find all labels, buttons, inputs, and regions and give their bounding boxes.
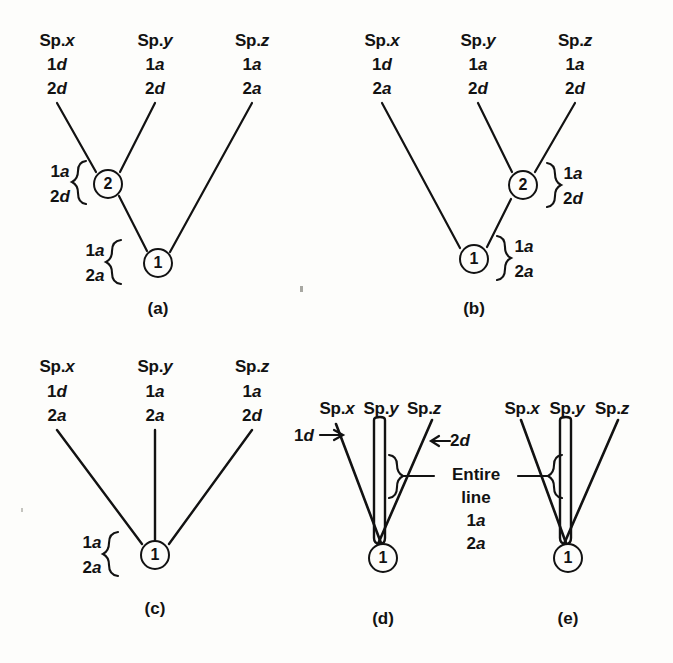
state-c-spy-char2: 2a	[146, 407, 165, 424]
brace-b-node2	[547, 163, 561, 207]
taxon-label-d-spy: Sp.y	[363, 400, 398, 417]
state-c-spx-char2: 2a	[48, 407, 67, 424]
state-b-spy-char2: 2d	[468, 80, 488, 97]
taxon-label-d-spz: Sp.z	[407, 400, 441, 417]
node-state-b-node1-char2: 2a	[515, 263, 534, 280]
node-state-b-node2-char1: 1a	[564, 165, 583, 182]
node-state-c-node1-char2: 2a	[83, 559, 102, 576]
annotation-state-2a: 2a	[467, 535, 486, 552]
taxon-label-b-spx: Sp.x	[364, 32, 399, 49]
taxon-label-c-spz: Sp.z	[235, 358, 269, 375]
state-c-spz-char2: 2d	[242, 407, 262, 424]
state-c-spy-char1: 1a	[146, 383, 165, 400]
figure-phylogenetic-trees: Sp.x Sp.y Sp.z 1d 2d 1a 2d 1a 2a 1a 2d 1…	[0, 0, 673, 663]
branch-a-spz	[170, 103, 252, 252]
taxon-label-e-spx: Sp.x	[504, 400, 539, 417]
state-c-spx-char1: 1d	[47, 383, 67, 400]
branch-b-node2-node1	[487, 199, 511, 247]
node-circle-c-1: 1	[140, 540, 170, 570]
state-a-spy-char2: 2d	[145, 80, 165, 97]
node-state-a-node1-char2: 2a	[86, 267, 105, 284]
scan-speck	[300, 286, 303, 292]
panel-caption-e: (e)	[558, 610, 579, 627]
state-b-spy-char1: 1a	[469, 56, 488, 73]
node-circle-e-1: 1	[553, 543, 583, 573]
annotation-arrow-label-2d: 2d	[450, 432, 470, 449]
branch-e-spy-loop	[560, 417, 571, 544]
brace-b-node1	[497, 236, 511, 280]
node-circle-b-1: 1	[459, 244, 489, 274]
node-state-b-node2-char2: 2d	[563, 190, 583, 207]
node-state-c-node1-char1: 1a	[83, 534, 102, 551]
node-circle-d-1: 1	[368, 543, 398, 573]
node-state-b-node1-char1: 1a	[515, 238, 534, 255]
node-state-a-node2-char1: 1a	[51, 163, 70, 180]
taxon-label-d-spx: Sp.x	[319, 400, 354, 417]
node-circle-b-2: 2	[508, 170, 538, 200]
taxon-label-c-spy: Sp.y	[137, 358, 172, 375]
state-b-spz-char1: 1a	[566, 56, 585, 73]
panel-caption-a: (a)	[148, 300, 169, 317]
node-circle-a-1: 1	[143, 248, 173, 278]
annotation-state-1a: 1a	[467, 512, 486, 529]
branch-d-spy-loop	[374, 417, 385, 544]
node-state-a-node1-char1: 1a	[86, 242, 105, 259]
arrow-label-d-1d: 1d	[294, 427, 314, 444]
state-b-spx-char2: 2a	[373, 80, 392, 97]
taxon-label-e-spz: Sp.z	[595, 400, 629, 417]
node-circle-a-2: 2	[93, 169, 123, 199]
branch-c-spz	[169, 430, 252, 544]
brace-a-node1	[106, 240, 121, 284]
branch-b-spz	[535, 103, 575, 172]
state-a-spx-char1: 1d	[47, 56, 67, 73]
taxon-label-c-spx: Sp.x	[39, 358, 74, 375]
state-a-spz-char2: 2a	[243, 80, 262, 97]
state-a-spx-char2: 2d	[47, 80, 67, 97]
state-b-spz-char2: 2d	[565, 80, 585, 97]
state-a-spz-char1: 1a	[243, 56, 262, 73]
branch-b-spy	[478, 103, 512, 172]
panel-caption-d: (d)	[372, 610, 394, 627]
annotation-line-entire: Entire	[452, 466, 500, 483]
branch-a-node2-node1	[119, 196, 147, 251]
branch-a-spy	[120, 103, 155, 172]
brace-a-node2	[72, 161, 86, 204]
annotation-line-line: line	[461, 489, 490, 506]
taxon-label-a-spx: Sp.x	[39, 32, 74, 49]
panel-caption-b: (b)	[463, 300, 485, 317]
taxon-label-a-spy: Sp.y	[137, 32, 172, 49]
scan-speck	[21, 508, 23, 512]
taxon-label-e-spy: Sp.y	[549, 400, 584, 417]
branch-b-spx	[382, 103, 460, 248]
state-b-spx-char1: 1d	[372, 56, 392, 73]
brace-c-node1	[103, 532, 118, 576]
state-c-spz-char1: 1a	[243, 383, 262, 400]
taxon-label-b-spy: Sp.y	[460, 32, 495, 49]
panel-caption-c: (c)	[145, 600, 166, 617]
branch-c-spx	[57, 430, 142, 544]
node-state-a-node2-char2: 2d	[50, 188, 70, 205]
state-a-spy-char1: 1a	[146, 56, 165, 73]
taxon-label-b-spz: Sp.z	[558, 32, 592, 49]
taxon-label-a-spz: Sp.z	[235, 32, 269, 49]
